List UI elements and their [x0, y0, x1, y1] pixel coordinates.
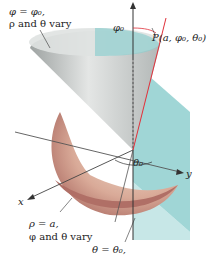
y-axis-label: y — [186, 168, 192, 179]
spherical-coordinates-diagram: φ = φ₀, ρ and θ vary φ₀ P(a, φ₀, θ₀) θ₀ … — [0, 0, 212, 257]
z-axis-arrow — [130, 2, 136, 9]
sphere-equation-label: ρ = a, — [29, 218, 59, 229]
phi0-label: φ₀ — [113, 22, 124, 33]
cone-vary-label: ρ and θ vary — [9, 18, 71, 29]
x-axis-arrow — [27, 194, 35, 200]
theta0-label: θ₀ — [133, 157, 143, 168]
sphere-vary-label: φ and θ vary — [29, 231, 92, 242]
point-label: P(a, φ₀, θ₀) — [152, 32, 206, 43]
plane-equation-label: θ = θ₀, — [92, 244, 126, 255]
x-axis-label: x — [18, 196, 24, 207]
cone-equation-label: φ = φ₀, — [9, 6, 45, 17]
